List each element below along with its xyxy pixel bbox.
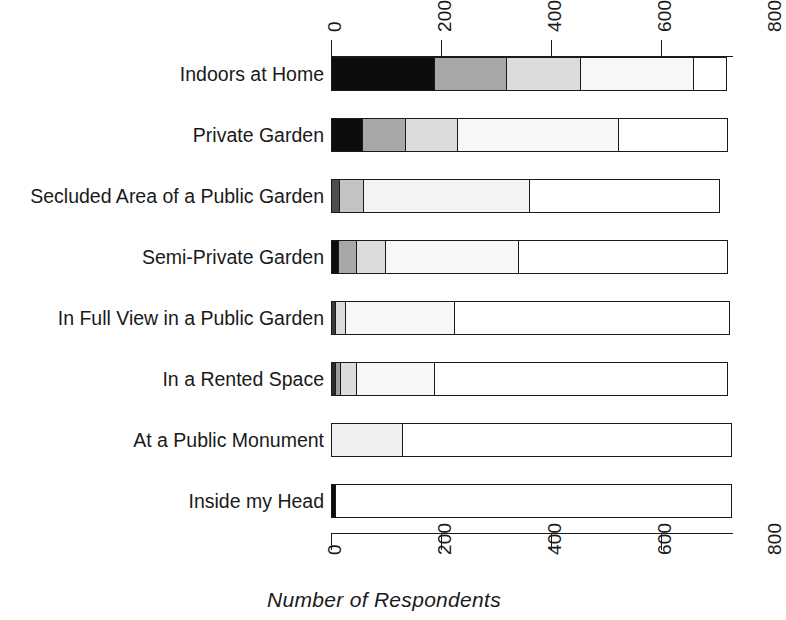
table-row — [331, 301, 730, 335]
bottom-tick-label-400: 400 — [544, 523, 566, 555]
category-label-4: In Full View in a Public Garden — [0, 307, 336, 330]
bar-segment-3-1 — [338, 240, 358, 274]
table-row — [331, 179, 720, 213]
top-tick-400 — [551, 40, 552, 56]
category-label-7: Inside my Head — [0, 490, 336, 513]
top-tick-0 — [331, 40, 332, 56]
table-row — [331, 118, 728, 152]
bar-segment-2-1 — [339, 179, 364, 213]
table-row — [331, 484, 732, 518]
bar-segment-2-3 — [529, 179, 720, 213]
table-row — [331, 362, 728, 396]
category-label-3: Semi-Private Garden — [0, 246, 336, 269]
bar-segment-5-2 — [340, 362, 357, 396]
top-tick-600 — [661, 40, 662, 56]
bar-segment-3-4 — [518, 240, 728, 274]
bar-segment-6-1 — [402, 423, 733, 457]
category-label-1: Private Garden — [0, 124, 336, 147]
bar-segment-1-0 — [331, 118, 363, 152]
category-label-5: In a Rented Space — [0, 368, 336, 391]
bar-segment-0-3 — [580, 57, 695, 91]
bar-segment-5-4 — [434, 362, 729, 396]
top-tick-label-400: 400 — [544, 0, 566, 32]
table-row — [331, 240, 728, 274]
bar-segment-4-3 — [454, 301, 730, 335]
top-tick-200 — [441, 40, 442, 56]
bar-segment-7-1 — [335, 484, 732, 518]
bar-segment-5-3 — [356, 362, 435, 396]
top-tick-label-800: 800 — [764, 0, 786, 32]
bar-segment-2-2 — [363, 179, 531, 213]
bar-segment-0-4 — [693, 57, 727, 91]
bar-segment-1-4 — [618, 118, 728, 152]
bar-segment-0-1 — [434, 57, 507, 91]
category-label-2: Secluded Area of a Public Garden — [0, 185, 336, 208]
bottom-tick-label-600: 600 — [654, 523, 676, 555]
bottom-tick-label-200: 200 — [434, 523, 456, 555]
bar-segment-0-0 — [331, 57, 436, 91]
bottom-tick-label-800: 800 — [764, 523, 786, 555]
category-label-0: Indoors at Home — [0, 63, 336, 86]
bar-segment-6-0 — [331, 423, 403, 457]
bar-segment-3-2 — [356, 240, 386, 274]
category-label-6: At a Public Monument — [0, 429, 336, 452]
bar-segment-0-2 — [506, 57, 581, 91]
table-row — [331, 57, 727, 91]
top-tick-label-0: 0 — [324, 21, 346, 32]
bar-segment-4-2 — [345, 301, 455, 335]
top-tick-label-600: 600 — [654, 0, 676, 32]
table-row — [331, 423, 732, 457]
top-tick-label-200: 200 — [434, 0, 456, 32]
bar-segment-1-2 — [405, 118, 459, 152]
bar-segment-3-3 — [385, 240, 519, 274]
bar-segment-1-3 — [457, 118, 619, 152]
x-axis-title: Number of Respondents — [0, 588, 768, 612]
bar-segment-1-1 — [362, 118, 406, 152]
bottom-tick-label-0: 0 — [324, 544, 346, 555]
